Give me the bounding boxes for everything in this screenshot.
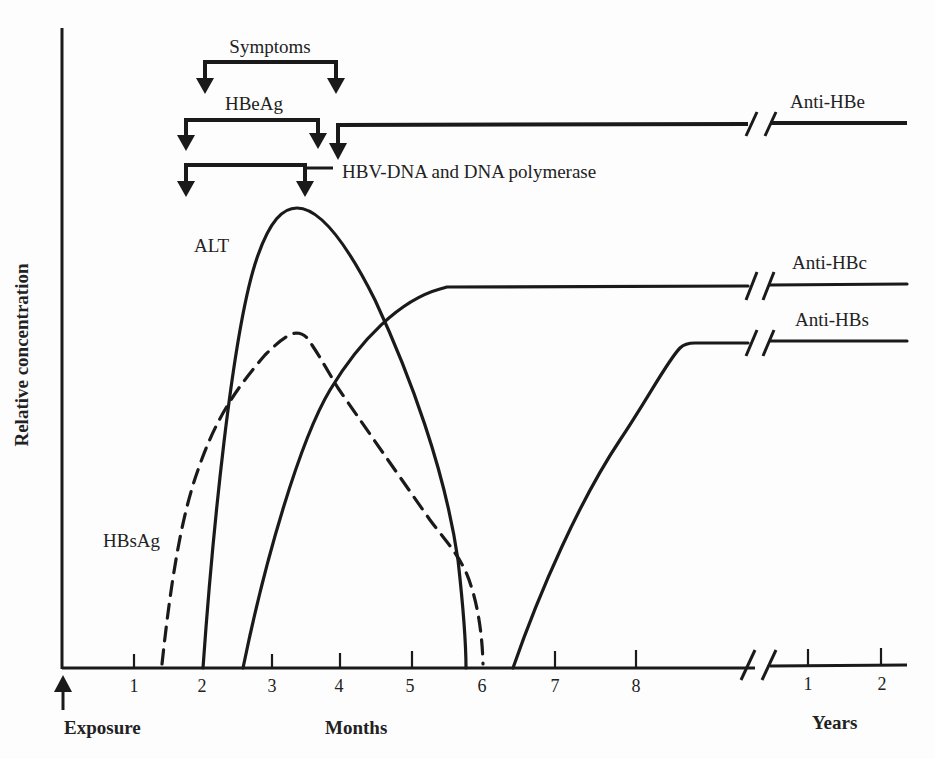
cut-off-caption: [0, 750, 935, 759]
alt-curve: [203, 208, 466, 668]
x-axis-title-years: Years: [812, 712, 857, 733]
anti-hbc-curve: [243, 272, 907, 668]
alt-label: ALT: [194, 235, 230, 256]
tick-label-month-4: 4: [335, 676, 344, 696]
x-axis-years: [770, 665, 907, 666]
hbv-dna-bracket: [177, 165, 333, 197]
y-axis-title: Relative concentration: [11, 263, 32, 447]
anti-hbc-label: Anti-HBc: [792, 252, 867, 273]
exposure-label: Exposure: [64, 717, 141, 738]
symptoms-bracket: [196, 62, 345, 94]
hbv-serology-diagram: 1 2 3 4 5 6 7 8 1 2 Exposure Months Year…: [0, 0, 935, 759]
tick-label-year-1: 1: [804, 674, 813, 694]
anti-hbe-label: Anti-HBe: [790, 91, 865, 112]
tick-label-month-1: 1: [130, 676, 139, 696]
tick-label-month-6: 6: [478, 676, 487, 696]
anti-hbe-line: [329, 112, 907, 160]
hbeag-label: HBeAg: [225, 93, 284, 114]
axis-break-mark: [741, 650, 755, 680]
tick-label-month-7: 7: [551, 676, 560, 696]
hbeag-bracket: [177, 120, 327, 151]
anti-hbs-label: Anti-HBs: [795, 309, 869, 330]
anti-hbs-curve: [513, 330, 907, 668]
exposure-arrow-icon: [54, 675, 72, 710]
tick-label-month-3: 3: [268, 676, 277, 696]
hbsag-curve: [162, 333, 483, 664]
x-axis-title-months: Months: [325, 717, 387, 738]
hbv-dna-label: HBV-DNA and DNA polymerase: [342, 161, 596, 182]
hbsag-label: HBsAg: [103, 530, 161, 551]
tick-label-year-2: 2: [878, 674, 887, 694]
tick-label-month-5: 5: [406, 676, 415, 696]
tick-label-month-2: 2: [198, 676, 207, 696]
tick-label-month-8: 8: [632, 676, 641, 696]
symptoms-label: Symptoms: [229, 36, 310, 57]
